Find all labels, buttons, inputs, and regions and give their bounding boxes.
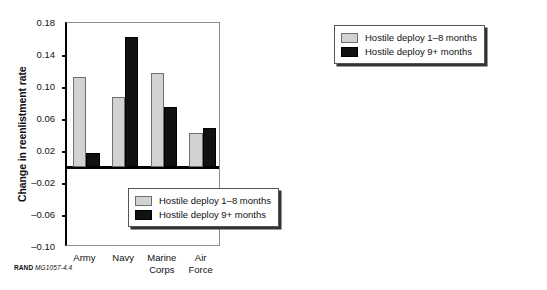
bar-reenlistment-1-0 <box>112 97 125 167</box>
x-tick-label: Army <box>73 252 95 264</box>
bar-reenlistment-2-0 <box>151 73 164 167</box>
legend-label-dark: Hostile deploy 9+ months <box>365 46 472 57</box>
y-tick-label: 0.10 <box>0 81 62 92</box>
y-tick-label: –0.10 <box>0 241 62 252</box>
chart-panel-reenlistment: Change in reenlistment rate 0.180.140.10… <box>0 0 274 290</box>
y-tick-label: 0.02 <box>274 105 547 116</box>
bar-reenlistment-2-1 <box>164 107 177 167</box>
legend-entry-light: Hostile deploy 1–8 months <box>135 194 271 207</box>
y-tick-mark <box>62 215 67 217</box>
x-tick-label: Marine Corps <box>147 252 176 275</box>
legend-swatch-light-icon <box>135 196 152 206</box>
legend-entry-dark: Hostile deploy 9+ months <box>135 208 271 221</box>
y-tick-mark <box>62 183 67 185</box>
figure-credit: RAND MG1057-4.4 <box>14 264 72 271</box>
legend-swatch-light-icon <box>341 33 358 43</box>
bar-reenlistment-1-1 <box>125 37 138 167</box>
legend-label-dark: Hostile deploy 9+ months <box>159 209 266 220</box>
y-tick-label: –0.02 <box>0 177 62 188</box>
y-tick-mark <box>62 119 67 121</box>
y-tick-mark <box>62 87 67 89</box>
x-tick-label: Navy <box>112 252 134 264</box>
y-tick-label: 0.18 <box>0 17 62 28</box>
legend-reenlistment: Hostile deploy 1–8 months Hostile deploy… <box>128 188 279 227</box>
y-tick-label: –0.06 <box>0 209 62 220</box>
bar-reenlistment-3-1 <box>203 128 216 167</box>
y-tick-label: –0.06 <box>274 191 547 202</box>
legend-entry-dark: Hostile deploy 9+ months <box>341 45 477 58</box>
bar-reenlistment-0-1 <box>86 153 99 167</box>
y-tick-label: 0.14 <box>0 49 62 60</box>
y-tick-label: –0.10 <box>274 235 547 246</box>
figure-two-panel-bar-charts: Change in reenlistment rate 0.180.140.10… <box>0 0 547 290</box>
legend-label-light: Hostile deploy 1–8 months <box>365 32 477 43</box>
bar-reenlistment-0-0 <box>73 77 86 167</box>
y-tick-label: –0.02 <box>274 148 547 159</box>
chart-panel-rc-join: Change in RC join rate 0.100.060.02–0.02… <box>274 0 547 290</box>
y-tick-label: 0.02 <box>0 145 62 156</box>
x-tick-label: Air Force <box>188 252 212 275</box>
y-tick-mark <box>62 151 67 153</box>
bar-reenlistment-3-0 <box>189 133 202 167</box>
legend-entry-light: Hostile deploy 1–8 months <box>341 31 477 44</box>
legend-label-light: Hostile deploy 1–8 months <box>159 195 271 206</box>
credit-figure-id: MG1057-4.4 <box>35 264 72 271</box>
y-tick-mark <box>62 55 67 57</box>
y-tick-label: 0.06 <box>0 113 62 124</box>
legend-swatch-dark-icon <box>341 47 358 57</box>
credit-org: RAND <box>14 264 33 271</box>
legend-rc-join: Hostile deploy 1–8 months Hostile deploy… <box>334 25 485 64</box>
legend-swatch-dark-icon <box>135 210 152 220</box>
